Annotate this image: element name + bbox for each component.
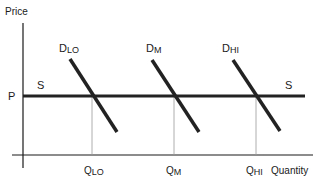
q-lo-sub: LO — [92, 167, 104, 177]
x-axis-label: Quantity — [271, 165, 308, 176]
demand-hi-sub: HI — [230, 45, 239, 55]
supply-label-left: S — [37, 79, 44, 91]
y-axis-label: Price — [5, 6, 28, 17]
q-hi-sub: HI — [254, 167, 263, 177]
supply-label-right: S — [285, 79, 292, 91]
demand-hi-main: D — [222, 42, 230, 54]
demand-lo-main: D — [59, 42, 67, 54]
price-label: P — [8, 90, 15, 102]
demand-lo-label: DLO — [59, 42, 79, 55]
demand-m-label: DM — [146, 42, 161, 55]
demand-lo-sub: LO — [67, 45, 79, 55]
demand-m-sub: M — [154, 45, 162, 55]
q-m-label: QM — [166, 165, 181, 177]
q-m-sub: M — [174, 167, 182, 177]
q-hi-label: QHI — [246, 165, 263, 177]
q-lo-label: QLO — [84, 165, 104, 177]
demand-m-main: D — [146, 42, 154, 54]
demand-hi-label: DHI — [222, 42, 239, 55]
supply-demand-diagram: Price Quantity P S S DLO DM DHI QLO QM Q… — [0, 0, 316, 181]
